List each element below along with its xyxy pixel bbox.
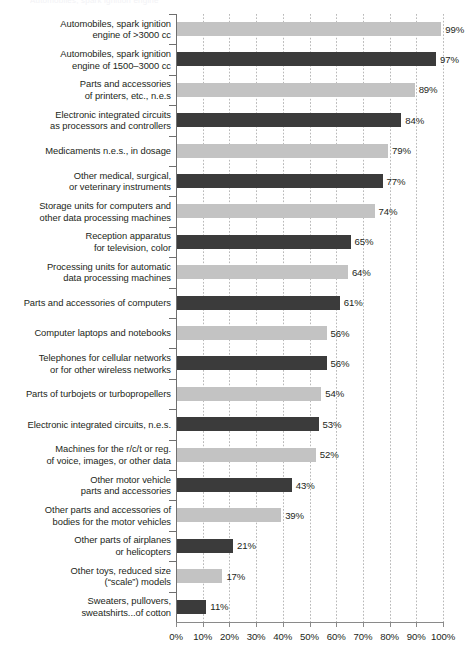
x-axis-tick-90 <box>416 622 417 627</box>
bar <box>177 174 383 188</box>
bar-row: Other motor vehicleparts and accessories… <box>0 470 473 500</box>
y-axis-tick <box>169 561 176 562</box>
bar-row: Parts and accessories of computers61% <box>0 288 473 318</box>
category-label: Other toys, reduced size(“scale”) models <box>3 561 171 591</box>
category-label: Parts of turbojets or turbopropellers <box>3 379 171 409</box>
category-label: Automobiles, spark ignitionengine of >30… <box>3 14 171 44</box>
category-label: Other parts and accessories ofbodies for… <box>3 500 171 530</box>
bar-row: Electronic integrated circuitsas process… <box>0 105 473 135</box>
clipped-header-artifact: Automobiles, spark ignition engine <box>30 0 330 6</box>
category-label: Processing units for automaticdata proce… <box>3 257 171 287</box>
bar-row: Storage units for computers andother dat… <box>0 196 473 226</box>
bar-value-label: 84% <box>405 113 424 127</box>
bar-value-label: 21% <box>237 539 256 553</box>
bar <box>177 204 375 218</box>
y-axis-tick <box>169 227 176 228</box>
y-axis-tick <box>169 75 176 76</box>
category-label: Reception apparatusfor television, color <box>3 227 171 257</box>
bar-value-label: 54% <box>325 387 344 401</box>
bar-row: Automobiles, spark ignitionengine of 150… <box>0 44 473 74</box>
bar <box>177 569 222 583</box>
x-axis-tick-50 <box>310 622 311 627</box>
y-axis-tick <box>169 470 176 471</box>
y-axis-tick <box>169 14 176 15</box>
x-axis-tick-label: 100% <box>427 631 459 642</box>
x-axis-tick-0 <box>176 622 177 627</box>
category-label: Parts and accessories of computers <box>3 288 171 318</box>
category-label: Other parts of airplanesor helicopters <box>3 531 171 561</box>
bar <box>177 83 415 97</box>
category-label: Automobiles, spark ignitionengine of 150… <box>3 44 171 74</box>
x-axis-tick-80 <box>390 622 391 627</box>
bar <box>177 296 340 310</box>
y-axis-tick <box>169 531 176 532</box>
bar-row: Telephones for cellular networksor for o… <box>0 348 473 378</box>
category-label: Other motor vehicleparts and accessories <box>3 470 171 500</box>
bar-row: Other parts and accessories ofbodies for… <box>0 500 473 530</box>
bar-row: Machines for the r/c/t or reg.of voice, … <box>0 440 473 470</box>
bar-row: Parts and accessoriesof printers, etc., … <box>0 75 473 105</box>
y-axis-tick <box>169 500 176 501</box>
bar-value-label: 99% <box>445 22 464 36</box>
bar <box>177 22 441 36</box>
bar-value-label: 65% <box>355 235 374 249</box>
bar-row: Other toys, reduced size(“scale”) models… <box>0 561 473 591</box>
bar <box>177 448 316 462</box>
x-axis-tick-40 <box>283 622 284 627</box>
horizontal-bar-chart: Automobiles, spark ignition engine Autom… <box>0 0 473 658</box>
bar-value-label: 74% <box>379 204 398 218</box>
bar-value-label: 56% <box>331 356 350 370</box>
bar-row: Automobiles, spark ignitionengine of >30… <box>0 14 473 44</box>
bar <box>177 265 348 279</box>
bar-value-label: 39% <box>285 508 304 522</box>
bar-value-label: 11% <box>210 600 228 614</box>
bar-value-label: 77% <box>387 174 406 188</box>
y-axis-tick <box>169 166 176 167</box>
category-label: Storage units for computers andother dat… <box>3 196 171 226</box>
y-axis-tick <box>169 136 176 137</box>
bar-value-label: 89% <box>419 83 438 97</box>
category-label: Computer laptops and notebooks <box>3 318 171 348</box>
category-label: Other medical, surgical,or veterinary in… <box>3 166 171 196</box>
bar-row: Electronic integrated circuits, n.e.s.53… <box>0 409 473 439</box>
bar-value-label: 56% <box>331 326 350 340</box>
y-axis-tick <box>169 318 176 319</box>
y-axis-tick <box>169 105 176 106</box>
bar <box>177 600 206 614</box>
bar-value-label: 17% <box>226 569 245 583</box>
bar <box>177 539 233 553</box>
bar <box>177 356 327 370</box>
bar <box>177 144 388 158</box>
bar-row: Parts of turbojets or turbopropellers54% <box>0 379 473 409</box>
bar <box>177 478 292 492</box>
category-label: Electronic integrated circuitsas process… <box>3 105 171 135</box>
bar-row: Medicaments n.e.s., in dosage79% <box>0 136 473 166</box>
x-axis-tick-10 <box>203 622 204 627</box>
bar-value-label: 43% <box>296 478 315 492</box>
y-axis-tick <box>169 348 176 349</box>
bar-row: Processing units for automaticdata proce… <box>0 257 473 287</box>
bar-row: Other medical, surgical,or veterinary in… <box>0 166 473 196</box>
bar <box>177 52 436 66</box>
y-axis-line <box>176 14 177 622</box>
y-axis-tick <box>169 44 176 45</box>
bar <box>177 417 319 431</box>
bar <box>177 326 327 340</box>
bar <box>177 387 321 401</box>
y-axis-tick <box>169 440 176 441</box>
bar-value-label: 97% <box>440 52 459 66</box>
category-label: Parts and accessoriesof printers, etc., … <box>3 75 171 105</box>
x-axis-tick-70 <box>363 622 364 627</box>
bar-value-label: 52% <box>320 448 339 462</box>
y-axis-tick <box>169 379 176 380</box>
bar-value-label: 61% <box>344 296 363 310</box>
category-label: Electronic integrated circuits, n.e.s. <box>3 409 171 439</box>
bar <box>177 508 281 522</box>
bar <box>177 113 401 127</box>
y-axis-tick <box>169 409 176 410</box>
bar-row: Reception apparatusfor television, color… <box>0 227 473 257</box>
x-axis-tick-30 <box>256 622 257 627</box>
bar-row: Other parts of airplanesor helicopters21… <box>0 531 473 561</box>
bar-value-label: 79% <box>392 144 411 158</box>
bar-row: Sweaters, pullovers,sweatshirts...of cot… <box>0 592 473 622</box>
